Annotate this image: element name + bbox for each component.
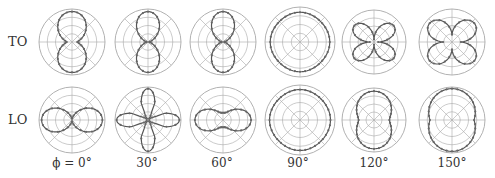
polar-panel-to-5 xyxy=(419,9,485,75)
col-label-0: ϕ = 0° xyxy=(42,156,102,170)
polar-panel-lo-1 xyxy=(115,87,181,153)
row-label-to: TO xyxy=(8,34,27,49)
polar-panel-to-1 xyxy=(115,9,181,75)
polar-panel-to-0 xyxy=(39,9,105,75)
polar-panel-lo-4 xyxy=(342,88,406,152)
polar-panel-lo-3 xyxy=(265,85,335,155)
polar-plot-grid xyxy=(0,0,495,178)
polar-panel-lo-2 xyxy=(190,87,256,153)
polar-panel-lo-0 xyxy=(39,87,105,153)
polar-panel-to-4 xyxy=(342,10,406,74)
col-label-30: 30° xyxy=(117,156,177,170)
polar-panel-lo-5 xyxy=(419,87,485,153)
polar-panel-to-3 xyxy=(265,7,335,77)
row-label-lo: LO xyxy=(8,112,27,127)
polar-panel-to-2 xyxy=(190,9,256,75)
col-label-60: 60° xyxy=(192,156,252,170)
col-label-120: 120° xyxy=(344,156,404,170)
col-label-90: 90° xyxy=(268,156,328,170)
col-label-150: 150° xyxy=(422,156,482,170)
